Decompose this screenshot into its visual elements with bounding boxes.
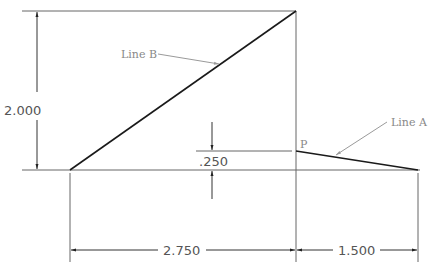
right-span-dimension-text: 1.500 [338,243,375,258]
line-a [296,151,418,170]
height-dimension-text: 2.000 [4,103,41,118]
extension-lines [22,11,420,262]
line-a-label: Line A [391,116,428,129]
line-b-leader [158,54,219,64]
line-b [70,11,296,170]
line-a-leader [336,122,387,155]
line-b-label: Line B [121,48,157,61]
rise-dimension-text: .250 [199,154,228,169]
technical-drawing: 2.000 .250 2.750 1.500 Line B Line A P [0,0,445,276]
point-p-label: P [300,138,308,151]
left-span-dimension-text: 2.750 [163,243,200,258]
